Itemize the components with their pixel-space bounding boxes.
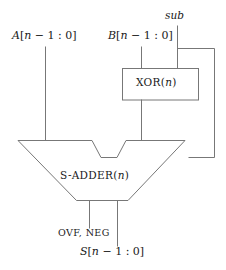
output-label-flags: OVF, NEG [58, 228, 110, 238]
adder-block-label: S-ADDER(n) [60, 170, 129, 181]
input-label-a: A[n − 1 : 0] [12, 30, 77, 41]
output-label-sum: S[n − 1 : 0] [80, 246, 144, 257]
input-label-sub: sub [165, 10, 184, 21]
circuit-diagram: A[n − 1 : 0] B[n − 1 : 0] sub XOR(n) S-A… [0, 0, 226, 270]
xor-block-label: XOR(n) [136, 77, 177, 88]
wire-sub-branch [178, 49, 215, 158]
input-label-b: B[n − 1 : 0] [108, 30, 173, 41]
